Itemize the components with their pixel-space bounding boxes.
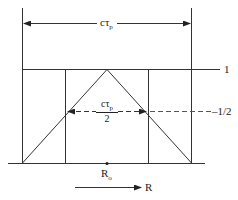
diagram-canvas: [0, 0, 238, 200]
level-half-label: –1/2: [212, 106, 232, 117]
center-range-label: Ro: [101, 168, 112, 182]
center-point-dot: [105, 162, 108, 165]
level-one-label: 1: [224, 64, 230, 75]
full-width-label: cτp: [100, 17, 113, 31]
range-axis-label: R: [145, 182, 152, 193]
half-width-label: cτp 2: [96, 99, 118, 124]
